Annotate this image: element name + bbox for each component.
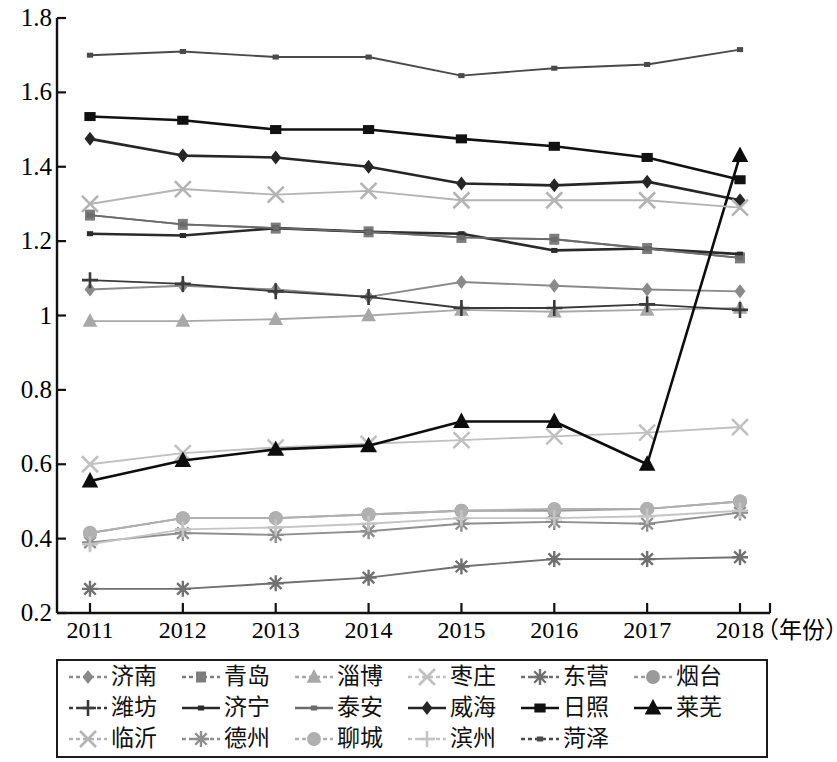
x-tick-label: 2015 [437,618,485,642]
series-marker [273,55,279,60]
series-marker [82,581,98,597]
x-tick-label: 2017 [623,618,671,642]
series-marker [456,275,467,289]
series-marker [458,73,464,78]
series-marker [180,222,186,227]
series-marker [639,551,655,567]
y-tick-label: 1.8 [6,5,52,30]
series-marker [270,150,281,164]
series-marker [551,237,557,242]
series-marker [644,62,650,67]
x-axis-unit-label: （年份） [756,618,837,642]
legend-item-青岛[interactable]: 青岛 [181,661,294,692]
y-tick-label: 0.4 [6,526,52,551]
legend-item-聊城[interactable]: 聊城 [294,723,407,754]
legend-marker-circle-icon [294,728,334,750]
legend-item-滨州[interactable]: 滨州 [407,723,520,754]
legend-item-威海[interactable]: 威海 [407,692,520,723]
legend-label: 济南 [111,665,157,688]
series-marker [732,302,748,318]
series-marker [453,559,469,575]
x-tick-label: 2016 [530,618,578,642]
series-marker [180,49,186,54]
legend-label: 潍坊 [111,696,157,719]
legend-marker-filled-triangle-icon [633,697,673,719]
legend-marker-filled-square-icon [520,697,560,719]
legend-marker-plus-icon [407,728,447,750]
series-marker [180,233,186,238]
legend-item-烟台[interactable]: 烟台 [633,661,746,692]
series-marker [365,229,371,234]
legend-item-德州[interactable]: 德州 [181,723,294,754]
chart-legend: 济南青岛淄博枣庄东营烟台潍坊济宁泰安威海日照莱芜临沂德州聊城滨州菏泽 [56,659,768,758]
series-marker [85,132,96,146]
x-tick-label: 2012 [159,618,207,642]
x-tick-label: 2011 [66,618,113,642]
series-marker [363,160,374,174]
legend-marker-square-icon [181,666,221,688]
series-marker [82,536,98,552]
legend-marker-asterisk-icon [181,728,221,750]
series-marker [270,125,281,134]
legend-marker-small-square-icon [294,697,334,719]
legend-item-莱芜[interactable]: 莱芜 [633,692,746,723]
legend-label: 淄博 [337,665,383,688]
y-tick-label: 1.2 [6,228,52,253]
series-marker [177,116,188,125]
series-marker [732,147,749,162]
y-tick-label: 1.6 [6,79,52,104]
legend-label: 菏泽 [563,727,609,750]
legend-marker-circle-icon [633,666,673,688]
legend-item-淄博[interactable]: 淄博 [294,661,407,692]
legend-item-东营[interactable]: 东营 [520,661,633,692]
series-marker [175,313,190,327]
legend-marker-x-icon [407,666,447,688]
legend-marker-small-square-icon [520,728,560,750]
legend-label: 枣庄 [450,665,496,688]
legend-label: 聊城 [337,727,383,750]
legend-marker-triangle-icon [294,666,334,688]
x-tick-label: 2013 [252,618,300,642]
legend-label: 济宁 [224,696,270,719]
series-marker [84,112,95,121]
legend-item-日照[interactable]: 日照 [520,692,633,723]
series-marker [83,313,98,327]
series-marker [642,175,653,189]
series-line-16 [90,50,740,76]
series-marker [642,153,653,162]
legend-item-潍坊[interactable]: 潍坊 [68,692,181,723]
legend-label: 泰安 [337,696,383,719]
series-marker [175,581,191,597]
series-marker [87,231,93,236]
series-marker [734,175,745,184]
legend-item-泰安[interactable]: 泰安 [294,692,407,723]
y-tick-label: 0.8 [6,377,52,402]
legend-label: 青岛 [224,665,270,688]
legend-item-枣庄[interactable]: 枣庄 [407,661,520,692]
x-tick-label: 2014 [345,618,393,642]
series-marker [175,276,191,292]
series-marker [549,142,560,151]
series-marker [363,125,374,134]
series-marker [737,47,743,52]
legend-marker-plus-icon [68,697,108,719]
series-marker [268,283,284,299]
legend-item-济宁[interactable]: 济宁 [181,692,294,723]
legend-row: 济南青岛淄博枣庄东营烟台 [58,661,766,692]
series-marker [175,521,191,537]
legend-item-临沂[interactable]: 临沂 [68,723,181,754]
series-marker [365,55,371,60]
legend-label: 日照 [563,696,609,719]
plot-canvas [0,0,824,630]
series-marker [549,279,560,293]
legend-label: 临沂 [111,727,157,750]
series-marker [361,570,377,586]
legend-label: 莱芜 [676,696,722,719]
legend-item-菏泽[interactable]: 菏泽 [520,723,633,754]
legend-row: 临沂德州聊城滨州菏泽 [58,723,766,754]
series-marker [456,134,467,143]
series-marker [546,300,562,316]
series-marker [546,551,562,567]
legend-item-济南[interactable]: 济南 [68,661,181,692]
